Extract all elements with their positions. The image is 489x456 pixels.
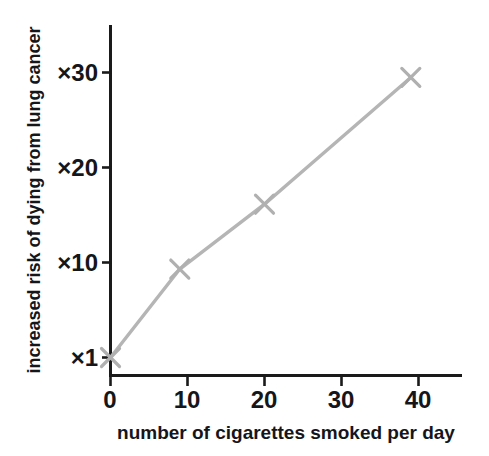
y-tick-labels: ×30 ×20 ×10 ×1 bbox=[57, 59, 98, 371]
x-axis-caption: number of cigarettes smoked per day bbox=[117, 422, 455, 443]
x-tick-label-0: 0 bbox=[103, 386, 116, 413]
chart-container: ×30 ×20 ×10 ×1 0 10 20 30 40 number of c… bbox=[0, 0, 489, 456]
x-tick-label-30: 30 bbox=[328, 386, 355, 413]
data-series-group bbox=[102, 68, 420, 366]
data-line bbox=[111, 77, 411, 357]
y-tick-label-x10: ×10 bbox=[57, 249, 98, 276]
x-tick-labels: 0 10 20 30 40 bbox=[103, 386, 431, 413]
y-axis-caption: increased risk of dying from lung cancer bbox=[24, 26, 44, 373]
data-point-marker bbox=[171, 260, 189, 278]
y-tick-label-x20: ×20 bbox=[57, 154, 98, 181]
data-point-marker bbox=[256, 195, 274, 213]
data-point-marker bbox=[402, 68, 420, 86]
line-chart: ×30 ×20 ×10 ×1 0 10 20 30 40 number of c… bbox=[0, 0, 489, 456]
x-tick-label-10: 10 bbox=[174, 386, 201, 413]
x-tick-label-20: 20 bbox=[251, 386, 278, 413]
y-tick-label-x30: ×30 bbox=[57, 59, 98, 86]
x-tick-label-40: 40 bbox=[405, 386, 432, 413]
y-tick-label-x1: ×1 bbox=[71, 344, 98, 371]
